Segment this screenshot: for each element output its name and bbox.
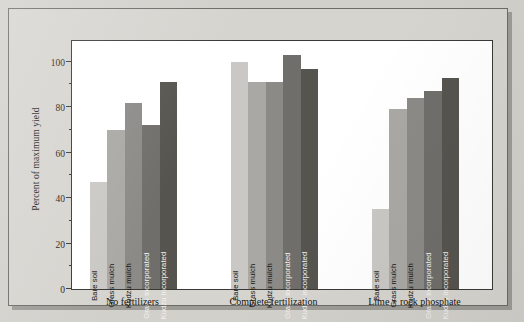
y-axis-tick-label: 40 bbox=[56, 194, 66, 204]
bar[interactable]: Grass mulch bbox=[389, 109, 406, 289]
y-axis-minor-tick bbox=[69, 129, 73, 130]
y-axis-major-tick bbox=[66, 243, 72, 244]
y-axis-major-tick bbox=[66, 106, 72, 107]
y-axis-tick-label: 0 bbox=[60, 285, 65, 295]
bar-group: Bare soilGrass mulchKudzu mulchGrass inc… bbox=[90, 41, 177, 289]
x-axis-group-label: No fertilizers bbox=[106, 296, 159, 307]
figure-container: Percent of maximum yield 020406080100 Ba… bbox=[0, 0, 524, 322]
bar[interactable]: Bare soil bbox=[231, 62, 248, 289]
y-axis-minor-tick bbox=[69, 83, 73, 84]
bar[interactable]: Kudzu incorporated bbox=[442, 78, 459, 289]
y-axis-tick-labels: 020406080100 bbox=[39, 40, 65, 290]
bar-group: Bare soilGrass mulchKudzu mulchGrass inc… bbox=[372, 41, 459, 289]
x-axis-group-label: Lime + rock phosphate bbox=[368, 296, 461, 307]
bar-groups: Bare soilGrass mulchKudzu mulchGrass inc… bbox=[72, 41, 492, 289]
bar[interactable]: Grass mulch bbox=[248, 82, 265, 289]
y-axis-tick-label: 80 bbox=[56, 103, 66, 113]
bar-group: Bare soilGrass mulchKudzu mulchGrass inc… bbox=[231, 41, 318, 289]
y-axis-tick-label: 100 bbox=[51, 58, 65, 68]
y-axis-tick-label: 20 bbox=[56, 240, 66, 250]
bar[interactable]: Grass incorporated bbox=[283, 55, 300, 289]
y-axis-major-tick bbox=[66, 288, 72, 289]
bar[interactable]: Bare soil bbox=[90, 182, 107, 289]
bar[interactable]: Grass incorporated bbox=[142, 125, 159, 289]
bar[interactable]: Kudzu mulch bbox=[266, 82, 283, 289]
x-axis-group-label: Complete fertilization bbox=[229, 296, 317, 307]
bar[interactable]: Grass incorporated bbox=[424, 91, 441, 289]
bar[interactable]: Grass mulch bbox=[107, 130, 124, 289]
y-axis-minor-tick bbox=[69, 174, 73, 175]
x-axis-group-labels: No fertilizersComplete fertilizationLime… bbox=[71, 296, 493, 312]
bar[interactable]: Kudzu mulch bbox=[125, 103, 142, 289]
bar[interactable]: Bare soil bbox=[372, 209, 389, 289]
plot-area: Bare soilGrass mulchKudzu mulchGrass inc… bbox=[71, 40, 493, 290]
y-axis-major-tick bbox=[66, 152, 72, 153]
bar[interactable]: Kudzu incorporated bbox=[160, 82, 177, 289]
y-axis-major-tick bbox=[66, 61, 72, 62]
chart-panel: Percent of maximum yield 020406080100 Ba… bbox=[8, 8, 508, 306]
bar[interactable]: Kudzu mulch bbox=[407, 98, 424, 289]
y-axis-tick-label: 60 bbox=[56, 149, 66, 159]
y-axis-minor-tick bbox=[69, 265, 73, 266]
y-axis-minor-tick bbox=[69, 220, 73, 221]
y-axis-major-tick bbox=[66, 197, 72, 198]
bar[interactable]: Kudzu incorporated bbox=[301, 69, 318, 289]
